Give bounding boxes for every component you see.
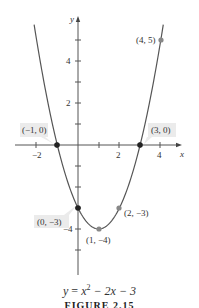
y-tick-label-4: 4 <box>66 56 71 66</box>
x-tick-label-4: 4 <box>157 150 162 160</box>
y-arrow-icon <box>76 16 80 22</box>
label-1-neg4: (1, −4) <box>86 235 111 245</box>
point-3-0 <box>137 142 143 148</box>
label-2-neg3: (2, −3) <box>124 208 149 218</box>
point-neg1-0 <box>54 142 60 148</box>
x-tick-label-2: 2 <box>116 150 121 160</box>
x-arrow-icon <box>176 143 182 147</box>
y-axis-label: y <box>69 14 74 24</box>
figure-label: FIGURE 2.15 <box>0 300 199 308</box>
point-0-neg3 <box>75 205 81 211</box>
label-neg1-0: (−1, 0) <box>22 125 47 135</box>
point-2-neg3 <box>116 205 121 210</box>
parabola-curve <box>34 25 163 229</box>
points <box>54 37 163 231</box>
parabola-graph: −2 2 4 4 2 −4 x y (4, 5) (−1, 0) (3, 0) … <box>0 0 199 308</box>
callout-boxes <box>20 123 176 228</box>
label-3-0: (3, 0) <box>151 125 171 135</box>
point-1-neg4 <box>96 226 101 231</box>
label-4-5: (4, 5) <box>136 35 156 45</box>
label-0-neg3: (0, −3) <box>37 217 62 227</box>
point-4-5 <box>158 37 163 42</box>
y-tick-label-neg4: −4 <box>63 224 73 234</box>
equation-caption: y = x2 − 2x − 3 <box>0 283 199 299</box>
x-axis-label: x <box>179 149 184 159</box>
y-tick-label-2: 2 <box>66 98 71 108</box>
x-tick-label-neg2: −2 <box>32 150 42 160</box>
